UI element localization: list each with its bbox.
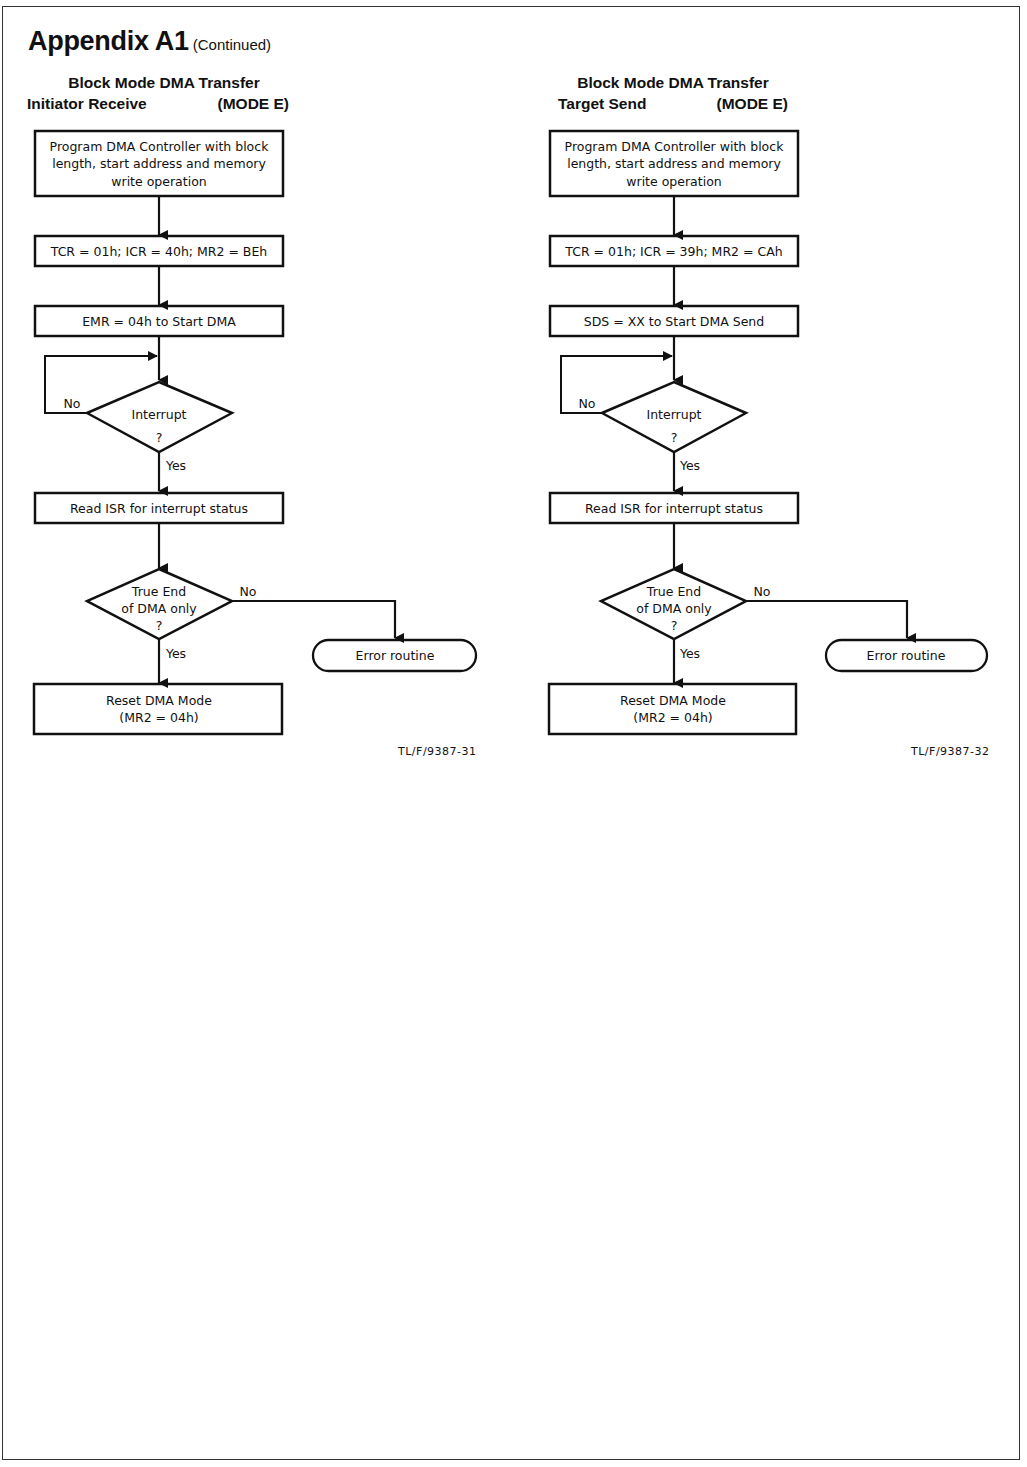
flowchart-initiator-receive-text: Program DMA Controller with block length… (50, 139, 435, 725)
error-text: Error routine (867, 648, 946, 663)
program-line1: Program DMA Controller with block (565, 139, 785, 154)
label-yes-interrupt: Yes (679, 458, 700, 473)
interrupt-question: ? (671, 430, 678, 445)
flowchart-target-send (549, 131, 987, 734)
end-question: ? (671, 618, 678, 633)
flowchart-target-send-text: Program DMA Controller with block length… (564, 139, 945, 725)
start-text: EMR = 04h to Start DMA (82, 314, 236, 329)
label-yes-interrupt: Yes (165, 458, 186, 473)
read-isr-text: Read ISR for interrupt status (70, 501, 248, 516)
interrupt-text: Interrupt (131, 407, 186, 422)
end-line1: True End (131, 584, 186, 599)
label-no-end: No (240, 584, 257, 599)
error-text: Error routine (356, 648, 435, 663)
reset-line1: Reset DMA Mode (106, 693, 212, 708)
interrupt-question: ? (156, 430, 163, 445)
label-no-end: No (754, 584, 771, 599)
label-no-interrupt: No (64, 396, 81, 411)
label-no-interrupt: No (579, 396, 596, 411)
flowchart-initiator-receive (34, 131, 476, 734)
reset-line2: (MR2 = 04h) (633, 710, 712, 725)
reset-line2: (MR2 = 04h) (119, 710, 198, 725)
program-line3: write operation (111, 174, 206, 189)
reset-line1: Reset DMA Mode (620, 693, 726, 708)
end-line1: True End (646, 584, 701, 599)
interrupt-text: Interrupt (646, 407, 701, 422)
figure-id-left: TL/F/9387-31 (398, 745, 477, 758)
flowcharts: Program DMA Controller with block length… (0, 0, 1027, 800)
end-line2: of DMA only (636, 601, 712, 616)
end-line2: of DMA only (121, 601, 197, 616)
label-yes-end: Yes (165, 646, 186, 661)
program-line2: length, start address and memory (52, 156, 266, 171)
figure-id-right: TL/F/9387-32 (911, 745, 990, 758)
reset-dma-box (549, 684, 796, 734)
program-line2: length, start address and memory (567, 156, 781, 171)
registers-text: TCR = 01h; ICR = 39h; MR2 = CAh (564, 244, 782, 259)
label-yes-end: Yes (679, 646, 700, 661)
program-line3: write operation (626, 174, 721, 189)
start-text: SDS = XX to Start DMA Send (584, 314, 764, 329)
end-question: ? (156, 618, 163, 633)
program-line1: Program DMA Controller with block (50, 139, 270, 154)
registers-text: TCR = 01h; ICR = 40h; MR2 = BEh (50, 244, 268, 259)
reset-dma-box (34, 684, 282, 734)
read-isr-text: Read ISR for interrupt status (585, 501, 763, 516)
